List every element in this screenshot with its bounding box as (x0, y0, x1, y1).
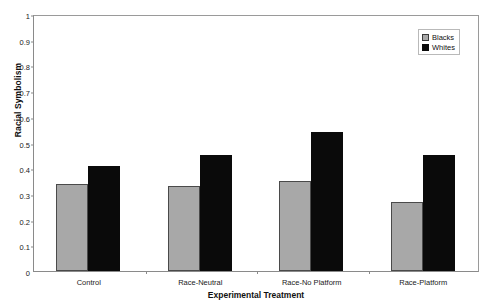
y-axis-tick-mark (31, 16, 34, 17)
bar-whites-race-platform (423, 155, 455, 271)
bar-blacks-race-no-platform (279, 181, 311, 271)
plot-area: 00.10.20.30.40.50.60.70.80.91 (33, 15, 479, 272)
y-axis-tick-mark (31, 67, 34, 68)
legend-item-label: Whites (432, 43, 455, 52)
legend-item-blacks: Blacks (422, 32, 455, 42)
bar-whites-control (88, 166, 120, 271)
bar-whites-race-no-platform (311, 132, 343, 271)
y-axis-tick-mark (31, 170, 34, 171)
y-axis-tick-label: 1 (26, 12, 30, 21)
y-axis-tick-label: 0.9 (20, 37, 30, 46)
x-axis-category-label: Race-Neutral (178, 278, 222, 287)
y-axis-tick-mark (31, 221, 34, 222)
y-axis-tick-mark (31, 195, 34, 196)
y-axis-tick-mark (31, 93, 34, 94)
y-axis-tick-label: 0 (26, 269, 30, 278)
x-axis-tick-mark (146, 271, 147, 274)
x-axis-title: Experimental Treatment (33, 290, 479, 300)
legend-swatch-icon (422, 44, 429, 51)
y-axis-tick-label: 0.5 (20, 140, 30, 149)
x-axis-category-label: Race-Platform (399, 278, 447, 287)
bar-chart: Racial Symbolism 00.10.20.30.40.50.60.70… (0, 0, 494, 307)
bar-blacks-race-platform (391, 202, 423, 271)
x-axis-tick-mark (257, 271, 258, 274)
bar-blacks-control (56, 184, 88, 271)
legend-swatch-icon (422, 34, 429, 41)
y-axis-tick-mark (31, 118, 34, 119)
y-axis-tick-label: 0.1 (20, 243, 30, 252)
chart-legend: BlacksWhites (418, 29, 460, 55)
y-axis-tick-mark (31, 41, 34, 42)
bar-whites-race-neutral (200, 155, 232, 271)
y-axis-tick-mark (31, 247, 34, 248)
y-axis-tick-mark (31, 144, 34, 145)
y-axis-tick-label: 0.6 (20, 114, 30, 123)
legend-item-whites: Whites (422, 42, 455, 52)
y-axis-tick-label: 0.2 (20, 217, 30, 226)
x-axis-category-label: Control (77, 278, 101, 287)
bar-blacks-race-neutral (168, 186, 200, 271)
y-axis-title: Racial Symbolism (13, 30, 23, 170)
x-axis-category-label: Race-No Platform (282, 278, 342, 287)
x-axis-tick-mark (369, 271, 370, 274)
y-axis-tick-label: 0.3 (20, 191, 30, 200)
legend-item-label: Blacks (432, 33, 454, 42)
y-axis-tick-label: 0.7 (20, 89, 30, 98)
y-axis-tick-label: 0.4 (20, 166, 30, 175)
y-axis-tick-label: 0.8 (20, 63, 30, 72)
